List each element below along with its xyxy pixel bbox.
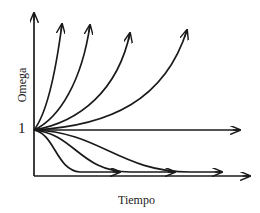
y-axis-label: Omega bbox=[15, 65, 29, 105]
x-axis-label: Tiempo bbox=[118, 193, 155, 208]
growth-curve-3 bbox=[34, 33, 130, 130]
origin-value-label: 1 bbox=[18, 120, 26, 137]
omega-time-diagram bbox=[0, 0, 260, 213]
growth-curve-1 bbox=[34, 24, 62, 130]
decay-curve-3 bbox=[34, 130, 222, 172]
